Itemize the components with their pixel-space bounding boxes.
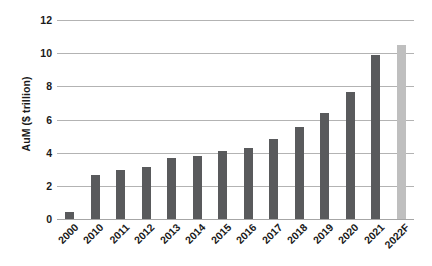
bar-2016[interactable] (244, 148, 253, 219)
bar-2021[interactable] (371, 55, 380, 219)
y-tick-label-6: 6 (30, 114, 52, 126)
x-axis-tick-labels: 2000201020112012201320142015201620172018… (57, 221, 414, 266)
bar-2000[interactable] (65, 212, 74, 219)
y-tick-label-2: 2 (30, 180, 52, 192)
y-tick-label-4: 4 (30, 147, 52, 159)
y-tick-label-8: 8 (30, 80, 52, 92)
bar-chart: AuM ($ trillion) 024681012 2000201020112… (0, 0, 432, 266)
bars-group (57, 20, 414, 219)
y-tick-label-12: 12 (30, 14, 52, 26)
bar-2013[interactable] (167, 158, 176, 219)
bar-2017[interactable] (269, 139, 278, 219)
bar-2022F[interactable] (397, 45, 406, 219)
plot-area (57, 20, 414, 219)
y-tick-label-0: 0 (30, 213, 52, 225)
y-tick-label-10: 10 (30, 47, 52, 59)
bar-2012[interactable] (142, 167, 151, 219)
y-axis-tick-labels: 024681012 (28, 20, 52, 219)
bar-2015[interactable] (218, 151, 227, 219)
bar-2014[interactable] (193, 156, 202, 219)
bar-2011[interactable] (116, 170, 125, 219)
gridline-0 (57, 219, 414, 220)
bar-2010[interactable] (91, 175, 100, 219)
bar-2020[interactable] (346, 92, 355, 219)
bar-2018[interactable] (295, 127, 304, 219)
bar-2019[interactable] (320, 113, 329, 219)
